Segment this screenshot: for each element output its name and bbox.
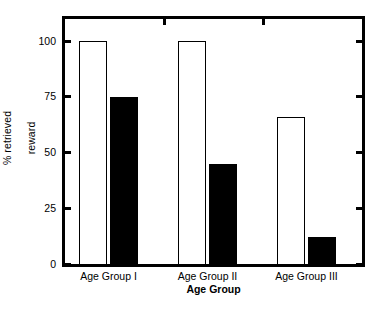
- y-tick-mark-right: [356, 95, 362, 98]
- y-tick-mark-right: [356, 151, 362, 154]
- y-tick-label: 50: [26, 147, 56, 158]
- bar-open-3: [277, 117, 305, 264]
- y-tick-mark-left: [65, 151, 71, 154]
- y-tick-label: 100: [26, 36, 56, 47]
- y-axis-title-line1: % retrieved: [1, 83, 13, 193]
- plot-area: [65, 19, 362, 264]
- plot-frame: [62, 16, 365, 267]
- y-tick-mark-left: [65, 263, 71, 266]
- y-tick-label: 0: [26, 259, 56, 270]
- y-tick-mark-right: [356, 263, 362, 266]
- bar-filled-1: [110, 97, 138, 264]
- y-tick-mark-right: [356, 207, 362, 210]
- bar-filled-3: [308, 237, 336, 264]
- y-tick-mark-left: [65, 207, 71, 210]
- x-category-label: Age Group III: [247, 270, 367, 282]
- y-tick-mark-left: [65, 40, 71, 43]
- y-tick-label: 25: [26, 203, 56, 214]
- x-tick-mark-top: [163, 19, 166, 25]
- y-tick-label-group: 1007550250: [26, 0, 56, 310]
- y-tick-label: 75: [26, 91, 56, 102]
- x-tick-mark-top: [262, 19, 265, 25]
- bar-chart: % retrieved reward 1007550250 Age Group …: [0, 0, 386, 310]
- y-tick-mark-left: [65, 95, 71, 98]
- bar-open-2: [178, 41, 206, 264]
- bar-open-1: [79, 41, 107, 264]
- x-axis-title: Age Group: [62, 283, 365, 295]
- y-tick-mark-right: [356, 40, 362, 43]
- bar-filled-2: [209, 164, 237, 264]
